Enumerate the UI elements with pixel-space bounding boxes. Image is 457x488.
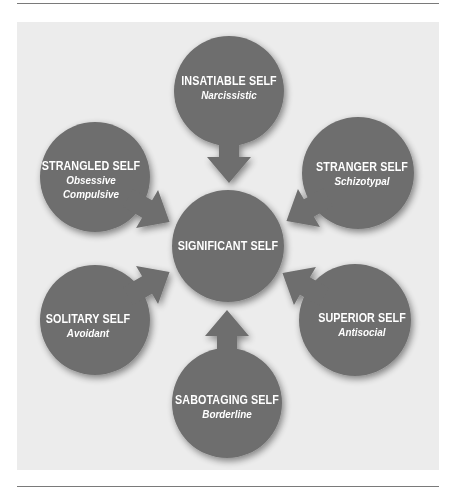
node-solitary-label: SOLITARY SELF Avoidant: [39, 312, 137, 341]
node-title: SABOTAGING SELF: [175, 393, 279, 408]
node-title: SIGNIFICANT SELF: [178, 239, 279, 254]
node-subtitle: Narcissistic: [181, 89, 276, 103]
node-superior-label: SUPERIOR SELF Antisocial: [311, 311, 413, 340]
node-subtitle: Obsessive: [42, 174, 141, 188]
node-subtitle: Antisocial: [318, 326, 406, 340]
node-stranger-label: STRANGER SELF Schizotypal: [309, 160, 416, 189]
node-significant-label: SIGNIFICANT SELF: [170, 239, 287, 254]
node-title: INSATIABLE SELF: [181, 74, 276, 89]
node-title: SUPERIOR SELF: [318, 311, 406, 326]
node-subtitle: Compulsive: [42, 188, 141, 202]
node-subtitle: Avoidant: [46, 327, 131, 341]
node-title: STRANGER SELF: [316, 160, 408, 175]
node-sabotaging-label: SABOTAGING SELF Borderline: [167, 393, 288, 422]
footer-rule: [17, 486, 439, 487]
node-title: SOLITARY SELF: [46, 312, 131, 327]
node-insatiable-label: INSATIABLE SELF Narcissistic: [174, 74, 285, 103]
node-strangled-label: STRANGLED SELF Obsessive Compulsive: [34, 159, 149, 202]
node-subtitle: Borderline: [175, 408, 279, 422]
node-subtitle: Schizotypal: [316, 175, 408, 189]
node-title: STRANGLED SELF: [42, 159, 141, 174]
